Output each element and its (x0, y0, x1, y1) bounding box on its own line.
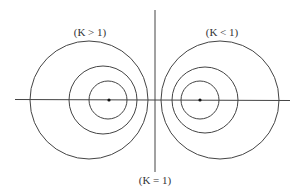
right-center-point (198, 98, 201, 101)
horizontal-axis (15, 100, 290, 101)
left-center-point (107, 98, 110, 101)
label-k-less-1: (K < 1) (206, 26, 238, 38)
label-k-equals-1: (K = 1) (139, 174, 171, 186)
circles-diagram (0, 0, 302, 192)
label-k-greater-1: (K > 1) (74, 26, 106, 38)
